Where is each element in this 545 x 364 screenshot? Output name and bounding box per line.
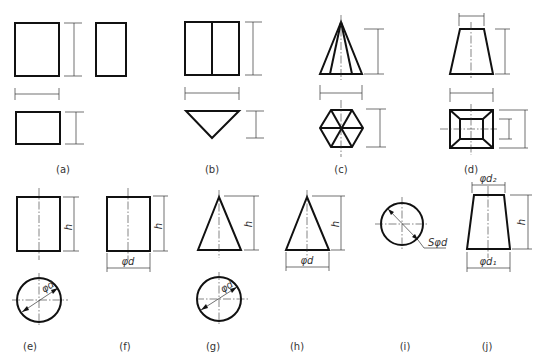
- dim-h-e: h: [63, 224, 74, 230]
- dim-h-f: h: [153, 223, 164, 229]
- drawing-canvas: (a) (b) (c): [0, 0, 545, 364]
- figure-a-rect-prism: (a): [15, 23, 126, 175]
- figure-h-cone: h φd (h): [286, 190, 345, 352]
- figure-b-triangular-prism: (b): [185, 22, 264, 175]
- label-g: (g): [206, 341, 220, 352]
- dim-d1-j: φd₁: [480, 256, 497, 267]
- figure-c-hex-pyramid: (c): [320, 15, 386, 175]
- label-e: (e): [23, 341, 37, 352]
- dim-h-j: h: [516, 219, 527, 225]
- figure-d-frustum-pyramid: (d): [440, 13, 528, 175]
- label-c: (c): [334, 164, 347, 175]
- dim-sd-i: Sφd: [428, 237, 448, 248]
- figure-j-frustum-cone: φd₂ h φd₁ (j): [467, 173, 532, 352]
- label-f: (f): [119, 341, 130, 352]
- dim-d-g: φd: [218, 278, 235, 295]
- dim-d2-j: φd₂: [480, 173, 497, 184]
- figure-i-sphere: Sφd (i): [375, 197, 448, 352]
- dim-h-g: h: [243, 221, 254, 227]
- figure-g-cone: h φd (g): [196, 190, 259, 352]
- label-b: (b): [205, 164, 219, 175]
- label-j: (j): [482, 341, 493, 352]
- dim-d-h: φd: [301, 255, 315, 266]
- dim-d-f: φd: [122, 256, 136, 267]
- figure-f-cylinder: h φd (f): [107, 188, 168, 352]
- label-i: (i): [400, 341, 411, 352]
- label-h: (h): [290, 341, 304, 352]
- label-d: (d): [464, 164, 478, 175]
- figure-e-cylinder: h φd (e): [12, 188, 79, 352]
- label-a: (a): [56, 164, 70, 175]
- dim-h-h: h: [330, 221, 341, 227]
